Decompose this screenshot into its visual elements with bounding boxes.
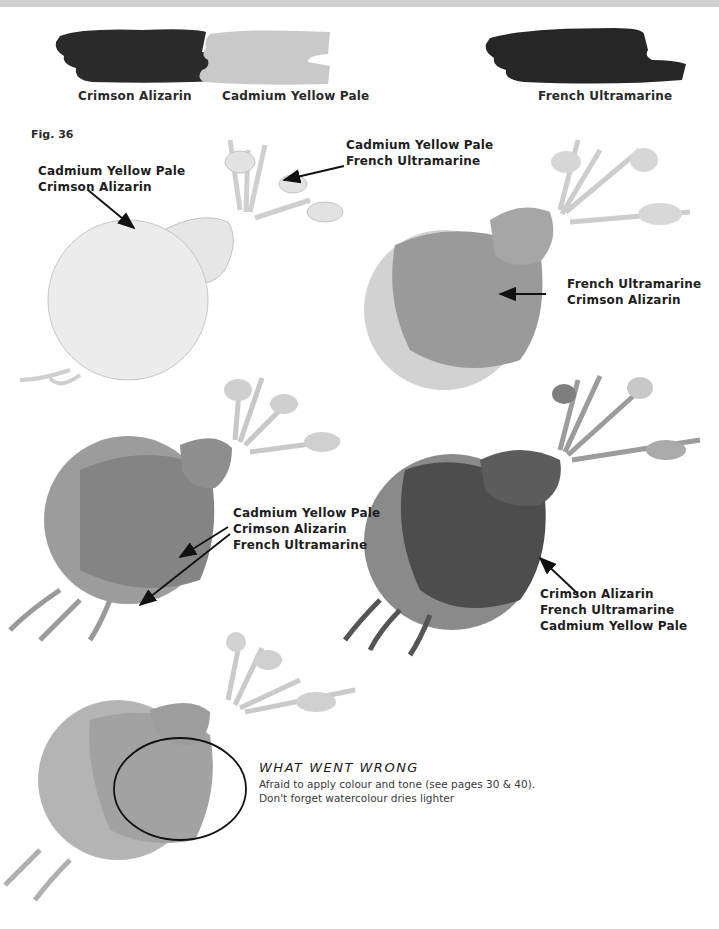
callout-stage1-body: Cadmium Yellow Pale Crimson Alizarin <box>38 163 185 195</box>
callout-stage4-body: Crimson Alizarin French Ultramarine Cadm… <box>540 586 687 634</box>
what-went-wrong-text: Afraid to apply colour and tone (see pag… <box>259 777 535 805</box>
callout-stage1-leaves: Cadmium Yellow Pale French Ultramarine <box>346 137 493 169</box>
turnip-stage-2 <box>364 140 690 390</box>
callout-stage3-body: Cadmium Yellow Pale Crimson Alizarin Fre… <box>233 505 380 553</box>
what-went-wrong-title: WHAT WENT WRONG <box>259 760 419 775</box>
callout-stage2-body: French Ultramarine Crimson Alizarin <box>567 276 701 308</box>
